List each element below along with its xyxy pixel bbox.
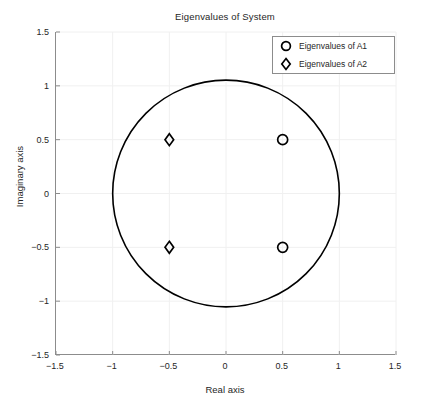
x-axis-label: Real axis [55, 384, 395, 395]
diamond-marker-icon [273, 55, 299, 73]
x-tick-label: 1 [336, 361, 341, 371]
x-tick-label: −1 [107, 361, 117, 371]
legend-box: Eigenvalues of A1 Eigenvalues of A2 [272, 36, 395, 74]
x-tick-label: −1.5 [46, 361, 64, 371]
plot-area [55, 32, 395, 355]
x-tick-label: 1.5 [389, 361, 402, 371]
x-tick-label: 0 [222, 361, 227, 371]
y-tick-label: −0.5 [9, 242, 49, 252]
x-tick-label: −0.5 [159, 361, 177, 371]
y-axis-label: Imaginary axis [14, 127, 25, 227]
y-tick-label: −1.5 [9, 350, 49, 360]
figure-canvas: Eigenvalues of System −1.5−1−0.500.511.5… [0, 0, 422, 408]
y-tick-label: 1.5 [9, 27, 49, 37]
legend-entry-a1[interactable]: Eigenvalues of A1 [273, 37, 396, 55]
circle-marker-icon [273, 37, 299, 55]
y-tick-label: 1 [9, 81, 49, 91]
legend-label-a2: Eigenvalues of A2 [299, 59, 367, 69]
x-tick-label: 0.5 [275, 361, 288, 371]
legend-label-a1: Eigenvalues of A1 [299, 41, 367, 51]
plot-svg [56, 32, 396, 355]
chart-title: Eigenvalues of System [55, 11, 395, 22]
y-tick-label: −1 [9, 296, 49, 306]
legend-entry-a2[interactable]: Eigenvalues of A2 [273, 55, 396, 73]
